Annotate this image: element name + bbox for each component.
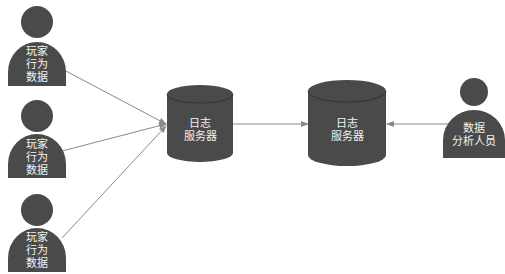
player-3-label: 玩家 行为 数据 [17, 231, 57, 270]
player-1-label: 玩家 行为 数据 [17, 45, 57, 84]
log-server-1-label: 日志 服务器 [170, 117, 230, 143]
analyst-label: 数据 分析人员 [444, 122, 504, 148]
log-server-2-label: 日志 服务器 [317, 117, 377, 143]
edge-player-2-to-log-server-1 [62, 124, 166, 151]
edge-player-3-to-log-server-1 [62, 126, 166, 238]
edge-player-1-to-log-server-1 [64, 70, 166, 124]
player-2-label: 玩家 行为 数据 [17, 138, 57, 177]
diagram-canvas [0, 0, 505, 274]
